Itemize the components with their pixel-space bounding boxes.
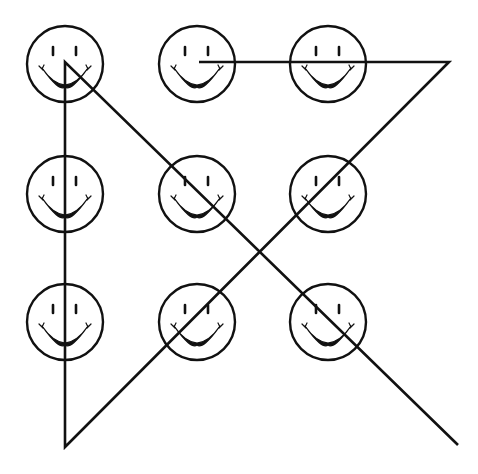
smiley-face-icon [159, 156, 235, 232]
face-outline [290, 284, 366, 360]
smiley-face-icon [290, 156, 366, 232]
face-outline [290, 156, 366, 232]
face-outline [159, 26, 235, 102]
smiley-face-icon [159, 26, 235, 102]
nine-dots-puzzle-diagram [0, 0, 478, 474]
face-outline [290, 26, 366, 102]
face-outline [159, 156, 235, 232]
smiley-face-icon [290, 26, 366, 102]
smiley-face-icon [159, 284, 235, 360]
face-outline [159, 284, 235, 360]
four-line-solution-path [65, 62, 458, 447]
smiley-face-icon [290, 284, 366, 360]
